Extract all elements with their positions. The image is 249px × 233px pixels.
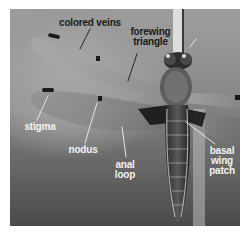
label-anal-loop: anal loop [110,160,140,180]
label-colored-veins: colored veins [55,18,125,28]
label-forewing-triangle: forewing triangle [123,27,178,47]
label-stigma: stigma [20,122,60,132]
label-nodus: nodus [63,145,103,155]
dragonfly-photo-figure: colored veins forewing triangle stigma n… [10,9,240,226]
figure-caption [8,229,243,233]
label-basal-wing-patch: basal wing patch [203,146,240,176]
